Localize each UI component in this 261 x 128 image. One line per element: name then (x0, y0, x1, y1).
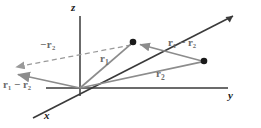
r1-minus-r2-left-vector-line (18, 75, 80, 89)
vectors-group (18, 44, 202, 88)
vector-diagram-figure: z y x −r₂ r1 r2 r₁ − r₂ r₁ − r₂ (0, 0, 261, 128)
axes-group (33, 16, 233, 118)
point-1-marker (130, 39, 137, 46)
r2-vector-line (80, 62, 202, 88)
x-axis-line (33, 16, 233, 118)
point-2-marker (201, 58, 208, 65)
minus-r2-vector-group (16, 45, 131, 67)
minus-r2-vector-line (16, 45, 131, 67)
diagram-canvas (0, 0, 261, 128)
